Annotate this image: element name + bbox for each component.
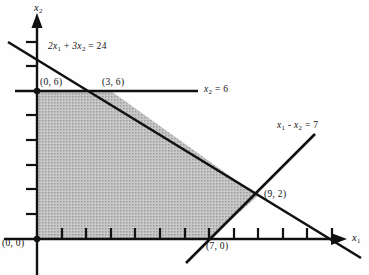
label-constraint-1: 2x1 + 3x2 = 24: [48, 41, 107, 51]
vertex-label-7-0: (7, 0): [206, 241, 228, 251]
vertex-label-3-6: (3, 6): [102, 77, 124, 87]
label-constraint-3: x1 - x2 = 7: [277, 120, 318, 130]
vertex-dot-origin: [34, 236, 40, 242]
label-constraint-2: x2 = 6: [204, 84, 228, 94]
vertex-label-9-2: (9, 2): [264, 189, 286, 199]
vertex-label-0-6: (0, 6): [40, 77, 62, 87]
vertex-dot-0-6: [34, 88, 40, 94]
y-axis-label: x2: [34, 2, 43, 13]
x-axis-label: x1: [352, 232, 361, 243]
figure-canvas: x2 x1 2x1 + 3x2 = 24 x2 = 6 x1 - x2 = 7 …: [0, 0, 369, 275]
vertex-label-origin: (0, 0): [2, 238, 24, 248]
feasible-region: [37, 91, 258, 239]
